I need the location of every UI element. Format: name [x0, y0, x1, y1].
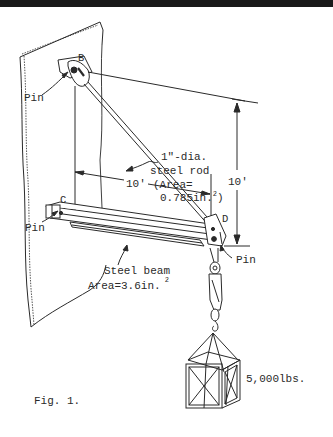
label-rod-line4: 0.785in.2) — [160, 190, 224, 204]
steel-beam — [46, 202, 212, 246]
bracket-b — [58, 56, 92, 86]
crate-load — [186, 333, 240, 408]
label-point-d: D — [222, 213, 228, 225]
label-beam-line1: Steel beam — [104, 265, 170, 277]
label-pin-d: Pin — [236, 254, 256, 266]
label-pin-b: Pin — [24, 92, 44, 104]
label-rod-line3: (Area= — [153, 179, 193, 191]
label-horizontal-dim: 10' — [126, 178, 146, 190]
label-load: 5,000lbs. — [246, 373, 305, 385]
label-beam-line2: Area=3.6in.2 — [88, 276, 169, 292]
label-rod-line2: steel rod — [150, 165, 209, 177]
top-rule — [0, 0, 333, 7]
figure-caption: Fig. 1. — [34, 395, 80, 407]
label-vertical-dim: 10' — [228, 176, 248, 188]
truss-diagram: 10' 10' — [0, 0, 333, 437]
label-rod-line1: 1"-dia. — [161, 151, 207, 163]
label-pin-c: Pin — [25, 222, 45, 234]
label-point-c: C — [60, 194, 66, 206]
hook-assembly — [209, 248, 222, 331]
label-point-b: B — [78, 52, 84, 64]
